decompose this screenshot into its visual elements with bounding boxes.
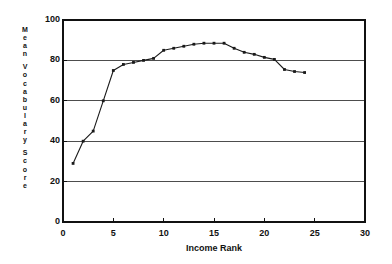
plot-area bbox=[0, 0, 392, 264]
data-point-marker bbox=[92, 130, 95, 133]
grid-lines bbox=[63, 60, 365, 181]
data-point-marker bbox=[203, 42, 206, 45]
data-point-marker bbox=[303, 71, 306, 74]
data-point-marker bbox=[243, 51, 246, 54]
data-point-marker bbox=[223, 42, 226, 45]
chart-figure: Mean Vocabulary Score 020406080100 05101… bbox=[0, 0, 392, 264]
data-point-marker bbox=[233, 47, 236, 50]
data-point-marker bbox=[82, 140, 85, 143]
data-point-marker bbox=[293, 70, 296, 73]
data-point-marker bbox=[122, 63, 125, 66]
data-point-marker bbox=[273, 58, 276, 61]
data-point-marker bbox=[162, 49, 165, 52]
data-point-marker bbox=[172, 47, 175, 50]
data-point-marker bbox=[132, 61, 135, 64]
data-point-marker bbox=[142, 59, 145, 62]
data-point-marker bbox=[102, 99, 105, 102]
data-point-marker bbox=[263, 56, 266, 59]
axis-tick-marks bbox=[63, 20, 315, 222]
plot-frame bbox=[63, 20, 365, 222]
data-point-marker bbox=[192, 43, 195, 46]
data-line-series-1 bbox=[73, 43, 305, 163]
data-point-marker bbox=[283, 68, 286, 71]
data-point-marker bbox=[253, 53, 256, 56]
data-point-marker bbox=[182, 45, 185, 48]
data-point-marker bbox=[213, 42, 216, 45]
data-point-marker bbox=[152, 57, 155, 60]
data-point-marker bbox=[72, 162, 75, 165]
data-point-marker bbox=[112, 69, 115, 72]
